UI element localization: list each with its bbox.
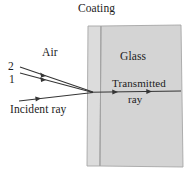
incident-ray-line <box>19 93 93 102</box>
transmitted-ray-label-line1: Transmitted <box>112 78 166 89</box>
ray-1-line <box>20 73 93 93</box>
optics-diagram: Coating Air Glass 2 1 Transmitted ray In… <box>0 0 192 172</box>
glass-label: Glass <box>120 51 146 63</box>
coating-region <box>87 26 101 166</box>
transmitted-ray-label-line2: ray <box>128 94 142 105</box>
ray-2-label: 2 <box>8 61 14 73</box>
ray-1-label: 1 <box>9 74 15 86</box>
ray-2-line <box>20 67 93 92</box>
coating-label: Coating <box>78 3 115 15</box>
incident-ray-label: Incident ray <box>10 104 66 116</box>
air-label: Air <box>42 47 58 59</box>
